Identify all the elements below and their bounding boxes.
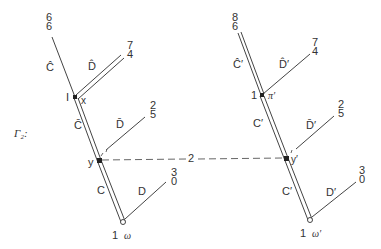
left-d-hat-numbers: 74 (125, 41, 135, 59)
connector-dashed-right (198, 158, 283, 159)
left-node-y (97, 158, 102, 163)
left-node-omega (121, 220, 126, 225)
left-node-x-left-label: I (66, 92, 69, 103)
left-edge-d-bar (106, 117, 145, 150)
right-edge-c-hat-b (241, 32, 264, 94)
right-d-bar-numbers: 25 (336, 100, 346, 118)
right-label-c-hat: Ĉ′ (233, 59, 243, 70)
left-root-right-label: ω (124, 231, 131, 241)
right-node-omega (308, 218, 313, 223)
left-edge-d-hat-b (78, 58, 124, 99)
left-d-numbers: 30 (169, 168, 179, 186)
right-label-c-bar: C′ (253, 118, 263, 129)
right-label-d-bar: D̄′ (306, 120, 316, 131)
right-edge-c-bar-b (264, 96, 288, 158)
right-node-pi-right-label: π′ (268, 91, 275, 101)
left-top-numbers: 66 (44, 13, 54, 31)
right-node-y-label: y′ (291, 155, 298, 165)
left-node-y-label: y (88, 157, 94, 168)
left-node-x-right-label: x (81, 96, 86, 106)
right-node-pi-left-label: 1 (251, 90, 257, 101)
left-label-c-hat: Ĉ (46, 62, 54, 73)
left-edge-d-hat-a (76, 55, 121, 95)
right-label-d-hat: D̂′ (279, 59, 289, 70)
right-label-c: C′ (282, 186, 292, 197)
diagram-lines (0, 0, 381, 249)
left-y-tick-1 (101, 153, 103, 156)
graph-label: Γ₂: (14, 128, 28, 139)
left-label-d-bar: D̄ (116, 119, 124, 130)
right-top-numbers: 86 (230, 13, 240, 31)
left-edge-c-hat (52, 37, 75, 97)
right-y-tick (291, 150, 292, 153)
left-label-d-hat: D̂ (88, 61, 96, 72)
left-label-c-bar: C̄ (74, 120, 82, 131)
connector-label: 2 (188, 153, 194, 164)
right-root-left-label: 1 (300, 228, 306, 239)
right-edge-c-bar-a (260, 96, 284, 158)
left-node-x (73, 95, 77, 99)
right-node-pi (260, 93, 264, 97)
diagram-canvas: Γ₂: 66 Ĉ D̂ 74 I x C̄ D̄ 25 y C D 30 1 ω… (0, 0, 381, 249)
right-root-right-label: ω′ (312, 229, 321, 239)
connector-dashed-left (102, 159, 186, 160)
right-label-d: D′ (326, 187, 336, 198)
right-node-y (284, 156, 289, 161)
left-root-left-label: 1 (112, 230, 118, 241)
right-d-hat-numbers: 74 (310, 38, 320, 56)
left-d-bar-numbers: 25 (148, 101, 158, 119)
right-d-numbers: 30 (357, 166, 367, 184)
left-label-c: C (97, 185, 105, 196)
left-label-d: D (138, 186, 146, 197)
